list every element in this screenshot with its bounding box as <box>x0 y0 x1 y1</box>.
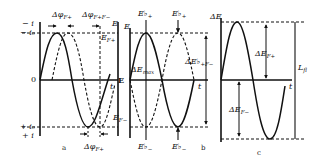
panel-a-t-label: t <box>110 83 113 91</box>
panel-c-dE-F-minus-label: ΔEF− <box>229 106 249 116</box>
panel-b-E-peak-2-label: E♭+ <box>172 10 186 20</box>
panel-a-caption: a <box>62 145 66 152</box>
panel-b-dE-pm-label: ΔE♭+F− <box>185 58 213 68</box>
panel-a-E-F-minus-label: EF− <box>113 114 127 124</box>
panel-b-E-peak-1-label: E♭+ <box>138 10 152 20</box>
panel-a-neg-i-label: − i <box>22 20 34 28</box>
panel-c-L-fl-label: Lfl <box>298 64 307 74</box>
panel-b <box>130 20 208 140</box>
panel-b-dE-max-label: ΔEmax <box>131 66 154 76</box>
panel-a-pos-i-label: + i <box>22 132 34 140</box>
diagram-canvas <box>0 0 325 164</box>
panel-a-E-F-plus-label: EF+ <box>101 34 115 44</box>
panel-a-E-label: E <box>112 20 118 28</box>
panel-c-t-label: t <box>289 83 292 91</box>
panel-a-dphi-top-label: ΔφF+ <box>52 11 72 21</box>
panel-c-dE-axis-label: ΔE <box>210 13 222 21</box>
panel-c-caption: c <box>257 150 261 157</box>
panel-b-E-trough-1-label: E♭− <box>138 143 152 153</box>
panel-a-pos-i0-label: + i₀ <box>20 123 35 131</box>
panel-a-dphi-bottom-label: ΔφF+ <box>84 143 104 153</box>
panel-b-caption: b <box>201 145 205 152</box>
panel-b-E-trough-2-label: E♭− <box>172 143 186 153</box>
panel-b-zero-label: E <box>118 76 124 84</box>
panel-a-dphi-pm-label: ΔφF+F− <box>82 11 110 21</box>
panel-a-zero-label: 0 <box>31 76 36 84</box>
panel-c <box>221 18 305 142</box>
panel-b-E-axis-label: E <box>124 23 130 31</box>
panel-a-neg-i0-label: − i₀ <box>20 29 35 37</box>
panel-c-dE-F-plus-label: ΔEF+ <box>255 50 275 60</box>
panel-b-t-label: t <box>198 83 201 91</box>
